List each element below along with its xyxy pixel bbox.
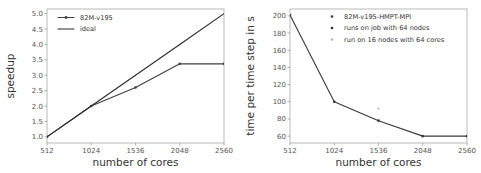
x-tick-label: 2048 — [171, 147, 189, 155]
series-marker-0 — [466, 135, 469, 138]
series-marker-0 — [223, 63, 226, 66]
y-tick-label: 2.0 — [32, 103, 43, 111]
y-tick-label: 2.5 — [32, 87, 43, 95]
y-tick-label: 100 — [273, 98, 286, 106]
y-tick-label: 1.0 — [32, 133, 43, 141]
x-axis-title: number of cores — [93, 156, 179, 168]
x-tick-label: 2560 — [215, 147, 233, 155]
data-layer — [46, 14, 226, 139]
x-tick-label: 1536 — [127, 147, 145, 155]
series-line-1 — [47, 14, 224, 137]
legend: 82M-v195-HMPT-MPIruns on job with 64 nod… — [331, 13, 445, 44]
y-tick-label: 4.5 — [32, 26, 43, 34]
x-tick-label: 1024 — [325, 147, 343, 155]
legend-swatch-marker-0 — [65, 16, 68, 19]
y-tick-label: 3.5 — [32, 56, 43, 64]
legend-swatch-dot-1 — [331, 27, 334, 30]
legend-label-0: 82M-v195-HMPT-MPI — [344, 13, 411, 21]
legend-label-0: 82M-v195 — [80, 14, 113, 22]
x-tick-label: 512 — [283, 147, 296, 155]
figure-two-panel-plot: 1.01.52.02.53.03.54.04.55.05121024153620… — [0, 0, 481, 173]
y-tick-label: 200 — [273, 12, 286, 20]
chart-panel-speedup: 1.01.52.02.53.03.54.04.55.05121024153620… — [0, 0, 240, 173]
x-tick-label: 512 — [40, 147, 53, 155]
y-tick-label: 60 — [277, 133, 286, 141]
legend-label-1: ideal — [80, 25, 96, 33]
chart-panel-time-per-step: 6080100120140160180200512102415362048256… — [240, 0, 481, 173]
series-marker-0 — [333, 100, 336, 103]
extra-point-0 — [377, 108, 379, 110]
y-axis-title: speedup — [4, 53, 16, 98]
y-tick-label: 160 — [273, 47, 286, 55]
series-marker-0 — [134, 86, 137, 89]
legend-swatch-dot-2 — [331, 38, 334, 41]
y-tick-label: 80 — [277, 115, 286, 123]
series-marker-0 — [421, 135, 424, 138]
series-marker-0 — [377, 119, 380, 122]
x-tick-label: 2560 — [458, 147, 476, 155]
y-tick-label: 5.0 — [32, 10, 43, 18]
series-line-0 — [290, 15, 467, 136]
legend-label-2: run on 16 nodes with 64 cores — [344, 36, 445, 44]
x-axis-title: number of cores — [336, 156, 422, 168]
y-tick-label: 180 — [273, 30, 286, 38]
x-tick-label: 2048 — [414, 147, 432, 155]
y-axis-title: time per time step in s — [244, 16, 256, 135]
y-tick-label: 120 — [273, 81, 286, 89]
speedup-chart-svg: 1.01.52.02.53.03.54.04.55.05121024153620… — [0, 0, 240, 173]
x-tick-label: 1024 — [82, 147, 100, 155]
x-tick-label: 1536 — [370, 147, 388, 155]
y-tick-label: 4.0 — [32, 41, 43, 49]
y-tick-label: 140 — [273, 64, 286, 72]
legend-swatch-dot-0 — [331, 15, 334, 18]
y-tick-label: 1.5 — [32, 118, 43, 126]
series-marker-0 — [178, 63, 181, 66]
y-tick-label: 3.0 — [32, 72, 43, 80]
time-per-step-chart-svg: 6080100120140160180200512102415362048256… — [240, 0, 481, 173]
legend-label-1: runs on job with 64 nodes — [344, 24, 430, 32]
legend: 82M-v195ideal — [58, 14, 113, 34]
